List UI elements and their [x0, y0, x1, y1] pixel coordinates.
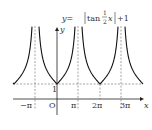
guide-lines	[13, 26, 143, 110]
origin-label: O	[49, 101, 56, 110]
x-tick-3pi: 3π	[120, 101, 130, 110]
x-tick-pi: π	[71, 101, 76, 110]
y-tick-1: 1	[52, 85, 57, 94]
svg-text:tan: tan	[87, 14, 100, 23]
y-axis-arrow-icon	[55, 27, 59, 31]
svg-text:+1: +1	[117, 14, 129, 23]
svg-text:2: 2	[103, 18, 107, 25]
svg-text:x: x	[108, 14, 113, 23]
x-tick-neg-pi: −π	[20, 101, 32, 110]
x-axis-label: x	[144, 101, 149, 110]
function-title: y= tan 1 2 x +1	[61, 9, 129, 25]
function-graph: y x O 1 −π π 2π 3π y= tan 1 2 x +1	[0, 0, 152, 130]
svg-text:1: 1	[103, 9, 107, 16]
y-axis-label: y	[59, 25, 65, 34]
x-tick-2pi: 2π	[92, 101, 102, 110]
svg-text:y=: y=	[61, 14, 73, 23]
